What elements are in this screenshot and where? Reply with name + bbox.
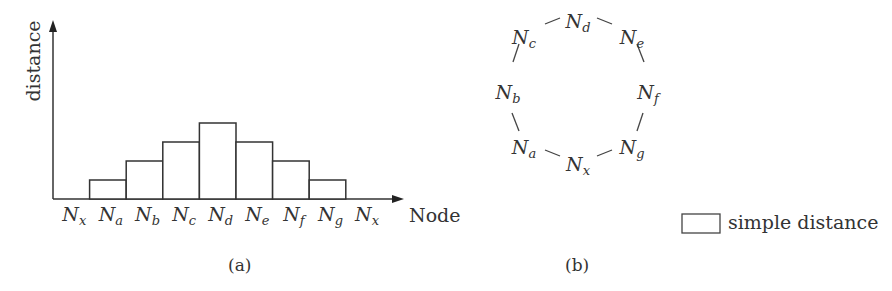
- ring-nodes: NdNeNfNgNxNaNbNc: [495, 10, 661, 178]
- x-tick-labels: NxNaNbNcNdNeNfNgNx: [61, 203, 379, 228]
- node-label: Ne: [619, 26, 645, 51]
- bar: [309, 180, 346, 199]
- legend-swatch: [682, 214, 720, 233]
- caption-b: (b): [565, 255, 589, 275]
- node-label: Ng: [619, 136, 645, 161]
- node-label: Nf: [282, 203, 307, 228]
- bar: [236, 142, 273, 199]
- y-axis-label: distance: [22, 16, 44, 106]
- bar: [163, 142, 200, 199]
- node-label: Nc: [511, 26, 537, 51]
- node-label: Nd: [207, 203, 233, 228]
- node-label: Na: [98, 203, 123, 228]
- bar-series: [90, 123, 346, 199]
- figure: NxNaNbNcNdNeNfNgNx NdNeNfNgNxNaNbNc: [0, 0, 892, 291]
- node-label: Na: [511, 136, 536, 161]
- node-label: Ne: [244, 203, 270, 228]
- bar: [90, 180, 127, 199]
- caption-a: (a): [228, 255, 251, 275]
- node-label: Nx: [61, 203, 87, 228]
- legend-label: simple distance: [728, 211, 878, 233]
- x-axis-label: Node: [409, 204, 460, 226]
- node-label: Nf: [636, 81, 661, 106]
- node-label: Ng: [317, 203, 343, 228]
- node-label: Nc: [171, 203, 197, 228]
- bar: [126, 161, 163, 199]
- node-label: Nd: [565, 10, 591, 35]
- y-axis-arrow-icon: [49, 20, 57, 32]
- node-label: Nx: [565, 153, 591, 178]
- node-label: Nb: [134, 203, 160, 228]
- node-label: Nb: [495, 81, 521, 106]
- bar: [273, 161, 310, 199]
- x-axis-arrow-icon: [392, 195, 404, 203]
- node-label: Nx: [354, 203, 380, 228]
- bar: [199, 123, 236, 199]
